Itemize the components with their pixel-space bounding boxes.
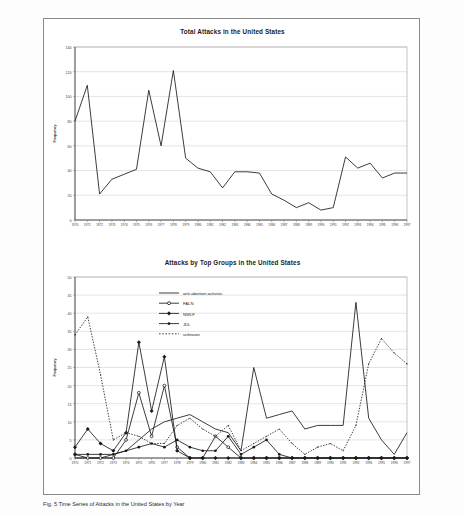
series-marker-3 [125, 449, 128, 452]
series-marker-4 [381, 338, 382, 339]
series-marker-4 [113, 439, 114, 440]
series-marker-4 [138, 436, 139, 437]
x-tick-label: 1974 [123, 461, 130, 465]
x-tick-label: 1980 [199, 461, 206, 465]
series-marker-3 [278, 453, 281, 456]
x-tick-label: 1979 [182, 223, 189, 227]
series-marker-1 [86, 457, 89, 460]
x-tick-label: 1973 [108, 223, 115, 227]
x-tick-label: 1972 [97, 461, 104, 465]
series-marker-3 [112, 453, 115, 456]
series-marker-3 [367, 457, 370, 460]
x-tick-label: 1976 [148, 461, 155, 465]
figure-frame: Total Attacks in the United States 02040… [43, 18, 420, 495]
x-tick-label: 1990 [317, 223, 324, 227]
x-tick-label: 1990 [327, 461, 334, 465]
series-marker-3 [329, 457, 332, 460]
series-marker-3 [393, 457, 396, 460]
x-tick-label: 1984 [244, 223, 251, 227]
series-marker-1 [125, 439, 128, 442]
figure-bottom-rule [43, 494, 420, 495]
legend-label-0: anti-abortion activists [183, 291, 222, 296]
series-marker-3 [342, 457, 345, 460]
x-tick-label: 1982 [219, 223, 226, 227]
x-tick-label: 1981 [207, 223, 214, 227]
x-tick-label: 1980 [195, 223, 202, 227]
x-tick-label: 1996 [391, 223, 398, 227]
y-tick-label: 5 [70, 439, 72, 443]
x-tick-label: 1977 [158, 223, 165, 227]
series-marker-3 [406, 457, 409, 460]
y-tick-label: 25 [68, 366, 72, 370]
series-marker-3 [137, 446, 140, 449]
x-tick-label: 1974 [121, 223, 128, 227]
y-tick-label: 120 [66, 71, 72, 75]
x-tick-label: 1994 [365, 461, 372, 465]
series-marker-4 [394, 352, 395, 353]
y-tick-label: 40 [68, 169, 72, 173]
y-tick-label: 50 [68, 276, 72, 280]
y-tick-label: 60 [68, 145, 72, 149]
x-tick-label: 1989 [314, 461, 321, 465]
series-marker-4 [355, 425, 356, 426]
series-marker-4 [253, 443, 254, 444]
x-tick-label: 1993 [354, 223, 361, 227]
legend-label-4: unknown [183, 332, 200, 337]
y-tick-label: 80 [68, 120, 72, 124]
x-tick-label: 1975 [135, 461, 142, 465]
series-marker-4 [240, 450, 241, 451]
x-tick-label: 1982 [225, 461, 232, 465]
legend-marker-3 [168, 322, 171, 325]
x-tick-label: 1971 [84, 461, 91, 465]
figure-caption: Fig. 5 Time Series of Attacks in the Uni… [43, 500, 433, 515]
y-tick-label: 15 [68, 403, 72, 407]
series-marker-3 [214, 449, 217, 452]
y-tick-label: 0 [70, 219, 72, 223]
x-tick-label: 1973 [110, 461, 117, 465]
x-tick-label: 1983 [231, 223, 238, 227]
series-marker-4 [292, 443, 293, 444]
x-tick-label: 1989 [305, 223, 312, 227]
x-tick-label: 1983 [238, 461, 245, 465]
series-marker-4 [100, 374, 101, 375]
series-marker-4 [151, 443, 152, 444]
x-tick-label: 1997 [404, 461, 411, 465]
y-tick-label: 100 [66, 95, 72, 99]
x-tick-label: 1971 [84, 223, 91, 227]
series-marker-4 [266, 436, 267, 437]
series-marker-3 [240, 453, 243, 456]
series-marker-4 [74, 334, 75, 335]
y-tick-label: 45 [68, 294, 72, 298]
x-tick-label: 1978 [170, 223, 177, 227]
chart-attacks-by-top-groups: Attacks by Top Groups in the United Stat… [44, 251, 421, 495]
series-marker-4 [164, 443, 165, 444]
x-tick-label: 1995 [378, 461, 385, 465]
x-tick-label: 1979 [186, 461, 193, 465]
x-tick-label: 1985 [256, 223, 263, 227]
series-marker-3 [316, 457, 319, 460]
series-marker-4 [343, 450, 344, 451]
y-axis-title: Frequency [53, 124, 57, 142]
series-marker-1 [99, 457, 102, 460]
x-tick-label: 1981 [212, 461, 219, 465]
series-marker-3 [176, 439, 179, 442]
series-marker-1 [227, 446, 230, 449]
x-tick-label: 1988 [301, 461, 308, 465]
legend-marker-1 [168, 302, 171, 305]
series-marker-4 [330, 443, 331, 444]
x-tick-label: 1992 [342, 223, 349, 227]
x-tick-label: 1977 [161, 461, 168, 465]
legend-label-3: JDL [183, 322, 191, 327]
y-tick-label: 20 [68, 385, 72, 389]
series-marker-4 [202, 428, 203, 429]
x-tick-label: 1978 [174, 461, 181, 465]
series-marker-4 [189, 418, 190, 419]
series-marker-1 [163, 384, 166, 387]
x-tick-label: 1987 [289, 461, 296, 465]
x-tick-label: 1970 [72, 223, 79, 227]
series-marker-1 [112, 457, 115, 460]
y-tick-label: 10 [68, 421, 72, 425]
x-tick-label: 1986 [276, 461, 283, 465]
x-tick-label: 1995 [379, 223, 386, 227]
x-tick-label: 1986 [268, 223, 275, 227]
